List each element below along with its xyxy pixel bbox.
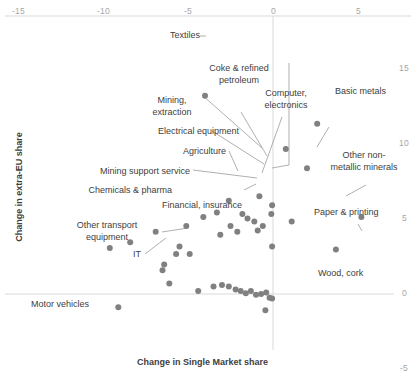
data-point	[269, 244, 275, 250]
data-point	[268, 211, 274, 217]
data-point	[251, 219, 257, 225]
data-point	[245, 216, 251, 222]
ytick-10: 10	[399, 138, 409, 148]
data-point	[160, 267, 166, 273]
label-wood-cork: Wood, cork	[318, 268, 398, 280]
ytick-0: 0	[402, 288, 407, 298]
xtick-5: 5	[356, 6, 361, 16]
xtick-neg15: -15	[12, 6, 25, 16]
label-motor-vehicles: Motor vehicles	[31, 299, 141, 311]
y-axis-title: Change in extra-EU share	[14, 122, 24, 252]
data-point	[255, 227, 261, 233]
label-financial-insurance: Financial, insurance	[124, 200, 242, 212]
data-point	[200, 214, 206, 220]
data-point	[238, 288, 244, 294]
data-point	[263, 290, 269, 296]
data-point	[187, 251, 193, 257]
data-point	[260, 223, 266, 229]
ytick-15: 15	[399, 63, 409, 73]
data-point	[269, 295, 275, 301]
data-point	[262, 307, 268, 313]
label-mining-extraction-line1: Mining,	[142, 95, 202, 107]
data-point	[177, 244, 183, 250]
label-other-nonmetallic-line2: metallic minerals	[316, 162, 412, 174]
label-chemicals-pharma: Chemicals & pharma	[41, 185, 172, 197]
data-point	[183, 223, 189, 229]
data-point	[239, 211, 245, 217]
data-point	[195, 288, 201, 294]
data-point	[234, 229, 240, 235]
data-point	[314, 121, 320, 127]
scatter-chart: -15 -10 -5 0 5 15 10 5 0 -5 Change in ex…	[0, 0, 417, 385]
label-it: IT	[103, 249, 141, 261]
data-point	[253, 292, 259, 298]
data-point	[173, 251, 179, 257]
label-agriculture: Agriculture	[131, 146, 226, 158]
label-electrical-equipment: Electrical equipment	[91, 126, 239, 138]
label-paper-printing: Paper & printing	[314, 207, 414, 219]
data-point	[211, 284, 217, 290]
data-point	[289, 219, 295, 225]
data-point	[248, 288, 254, 294]
label-other-nonmetallic-line1: Other non-	[316, 150, 412, 162]
data-point	[304, 165, 310, 171]
data-point	[283, 146, 289, 152]
label-mining-support-service: Mining support service	[71, 166, 190, 178]
xtick-neg10: -10	[97, 6, 110, 16]
data-point	[161, 261, 167, 267]
xtick-0: 0	[271, 6, 276, 16]
label-other-transport-line1: Other transport	[53, 220, 161, 232]
data-point	[233, 287, 239, 293]
label-mining-extraction-line2: extraction	[142, 107, 202, 119]
data-point	[269, 202, 275, 208]
data-point	[258, 291, 264, 297]
label-computer-electronics-line1: Computer,	[252, 88, 320, 100]
data-point	[166, 281, 172, 287]
data-point	[243, 290, 249, 296]
data-point	[228, 223, 234, 229]
data-point	[256, 193, 262, 199]
xtick-neg5: -5	[184, 6, 192, 16]
label-basic-metals: Basic metals	[335, 86, 417, 98]
label-other-transport-line2: equipment	[53, 232, 161, 244]
label-textiles: Textiles	[100, 30, 200, 42]
data-point	[219, 282, 225, 288]
label-coke-petroleum-line1: Coke & refined	[189, 63, 289, 75]
data-point	[333, 247, 339, 253]
data-point	[202, 93, 208, 99]
data-point	[226, 284, 232, 290]
ytick-neg5: -5	[400, 363, 408, 373]
data-point	[217, 232, 223, 238]
x-axis-title: Change in Single Market share	[137, 357, 268, 367]
label-computer-electronics-line2: electronics	[252, 100, 320, 112]
label-coke-petroleum-line2: petroleum	[189, 75, 289, 87]
